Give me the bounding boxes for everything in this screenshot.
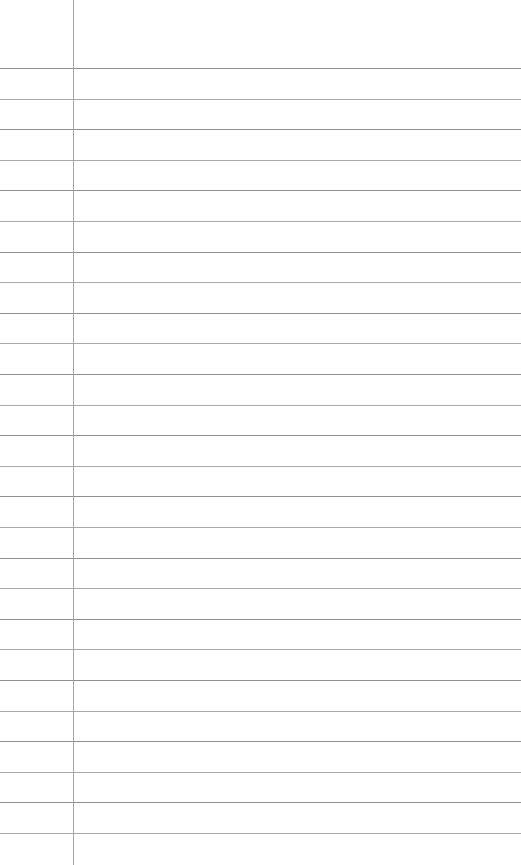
text-row[interactable] [0, 802, 521, 833]
text-row[interactable] [0, 343, 521, 374]
text-row[interactable] [0, 466, 521, 497]
text-row[interactable] [0, 405, 521, 436]
text-row[interactable] [0, 129, 521, 160]
text-row[interactable] [0, 649, 521, 680]
text-row[interactable] [0, 527, 521, 558]
text-row[interactable] [0, 680, 521, 711]
text-row[interactable] [0, 313, 521, 344]
text-row[interactable] [0, 282, 521, 313]
text-row[interactable] [0, 588, 521, 619]
text-row[interactable] [0, 435, 521, 466]
text-row[interactable] [0, 221, 521, 252]
text-row[interactable] [0, 772, 521, 803]
text-row[interactable] [0, 374, 521, 405]
text-row[interactable] [0, 558, 521, 589]
text-row[interactable] [0, 496, 521, 527]
notebook-page [0, 0, 521, 865]
text-row[interactable] [0, 99, 521, 130]
text-row[interactable] [0, 619, 521, 650]
text-rows-layer [0, 0, 521, 865]
text-row[interactable] [0, 252, 521, 283]
text-row[interactable] [0, 37, 521, 68]
text-row[interactable] [0, 741, 521, 772]
text-row[interactable] [0, 711, 521, 742]
text-row[interactable] [0, 68, 521, 99]
text-row[interactable] [0, 190, 521, 221]
text-row[interactable] [0, 160, 521, 191]
